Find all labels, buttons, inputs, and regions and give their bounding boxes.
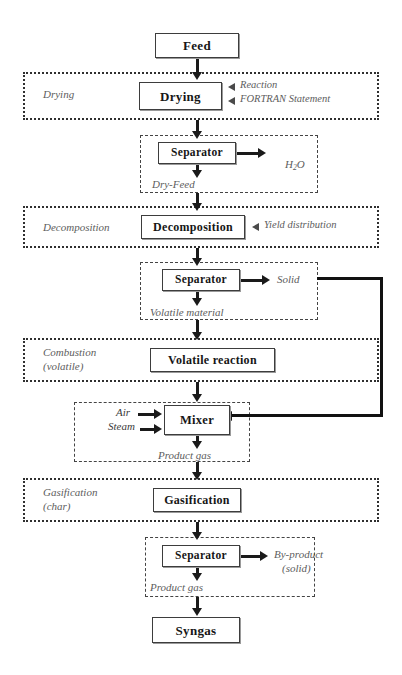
arrowhead-feed-to-drying <box>192 72 202 80</box>
recycle-line-vertical <box>380 277 383 417</box>
legend-marker-yield-icon <box>252 223 259 231</box>
arrowhead-to-separator2 <box>192 258 202 266</box>
syngas-box: Syngas <box>152 617 240 643</box>
legend-yield-label: Yield distribution <box>264 219 336 231</box>
separator1-box-label: Separator <box>171 147 223 159</box>
arrowhead-mixer-down <box>192 441 202 449</box>
stream-water-label: H2O <box>274 146 305 185</box>
arrowhead-to-separator3 <box>192 532 202 540</box>
recycle-line-top <box>317 277 383 280</box>
stream-byproduct-label-line1: By-product <box>274 548 323 560</box>
separator3-box: Separator <box>162 545 240 567</box>
decomposition-box: Decomposition <box>141 215 245 239</box>
stream-water-o: O <box>297 158 305 170</box>
section-combustion-label-line2: (volatile) <box>43 360 83 372</box>
connector-separator3-to-byproduct <box>240 555 262 558</box>
arrowhead-to-mixer <box>192 394 202 402</box>
arrowhead-separator3-down <box>192 573 202 581</box>
section-gasification-label-line1: Gasification <box>43 486 97 498</box>
mixer-box: Mixer <box>164 405 230 435</box>
arrowhead-to-decomposition <box>192 203 202 211</box>
section-combustion-label-line1: Combustion <box>43 346 96 358</box>
volatile-reaction-box-label: Volatile reaction <box>168 354 257 366</box>
legend-reaction-label: Reaction <box>240 79 277 91</box>
separator3-box-label: Separator <box>175 550 227 562</box>
decomposition-box-label: Decomposition <box>153 221 233 233</box>
legend-fortran-label: FORTRAN Statement <box>240 93 330 105</box>
separator2-box: Separator <box>162 269 240 291</box>
drying-box: Drying <box>139 82 222 110</box>
stream-product-gas-final-label: Product gas <box>150 581 203 593</box>
arrowhead-separator3-to-byproduct <box>260 551 268 561</box>
stream-product-gas-mixer-label: Product gas <box>158 449 211 461</box>
section-drying-label: Drying <box>43 88 74 100</box>
gasification-box: Gasification <box>153 488 241 512</box>
arrowhead-to-syngas <box>192 608 202 616</box>
arrowhead-to-gasification <box>192 472 202 480</box>
legend-marker-fortran-icon <box>228 97 235 105</box>
stream-volatile-material-label: Volatile material <box>150 306 224 318</box>
recycle-line-bottom <box>232 414 383 417</box>
stream-water-h: H <box>285 158 293 170</box>
process-flow-diagram: Feed Drying Drying Reaction FORTRAN Stat… <box>0 0 402 675</box>
arrowhead-steam-to-mixer <box>154 424 162 434</box>
syngas-box-label: Syngas <box>176 624 217 637</box>
stream-solid-label: Solid <box>277 273 300 285</box>
arrowhead-drying-to-separator1 <box>192 131 202 139</box>
feed-box: Feed <box>155 33 239 58</box>
feed-box-label: Feed <box>183 39 211 52</box>
arrowhead-separator1-down <box>192 170 202 178</box>
section-gasification-label-line2: (char) <box>43 500 71 512</box>
gasification-box-label: Gasification <box>164 494 230 506</box>
stream-dry-feed-label: Dry-Feed <box>152 178 195 190</box>
drying-box-label: Drying <box>160 90 201 103</box>
mixer-box-label: Mixer <box>180 414 214 427</box>
separator1-box: Separator <box>158 142 236 164</box>
stream-byproduct-label-line2: (solid) <box>282 562 311 574</box>
arrowhead-separator1-to-water <box>258 148 266 158</box>
arrowhead-separator2-down <box>192 298 202 306</box>
section-decomposition-label: Decomposition <box>43 221 110 233</box>
arrowhead-separator2-to-solid <box>262 275 270 285</box>
connector-separator1-to-water <box>236 152 260 155</box>
volatile-reaction-box: Volatile reaction <box>150 348 275 372</box>
arrowhead-to-combustion <box>192 332 202 340</box>
connector-separator2-to-solid <box>240 279 264 282</box>
stream-steam-label: Steam <box>108 420 135 432</box>
arrowhead-air-to-mixer <box>154 409 162 419</box>
stream-air-label: Air <box>116 406 130 418</box>
separator2-box-label: Separator <box>175 274 227 286</box>
legend-marker-reaction-icon <box>228 83 235 91</box>
